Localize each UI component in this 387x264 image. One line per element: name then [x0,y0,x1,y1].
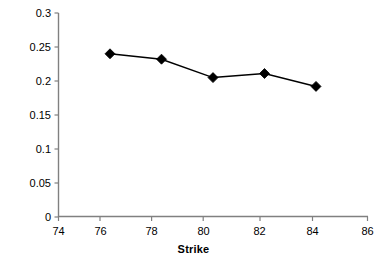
line-chart: 0.3 0.25 0.2 0.15 0.1 0.05 0 74 76 78 80… [0,0,387,264]
y-tick-label-0.2: 0.2 [4,76,51,87]
data-point-marker [208,73,218,83]
y-tick-label-0.3: 0.3 [4,8,51,19]
x-tick-label-86: 86 [347,226,387,237]
y-tick-label-0.15: 0.15 [4,110,51,121]
x-axis-title: Strike [0,243,387,255]
y-tick-label-0.25: 0.25 [4,42,51,53]
x-tick-label-76: 76 [80,226,121,237]
x-tick-label-78: 78 [131,226,172,237]
x-tick-label-82: 82 [239,226,280,237]
y-tick-label-0: 0 [4,212,51,223]
y-tick-label-0.05: 0.05 [4,178,51,189]
data-point-marker [311,81,321,91]
x-tick-label-80: 80 [183,226,224,237]
data-point-marker [157,54,167,64]
data-point-marker [260,69,270,79]
data-point-marker [105,49,115,59]
series-markers [105,49,321,92]
x-tick-label-74: 74 [38,226,79,237]
x-tick-label-84: 84 [292,226,333,237]
y-tick-label-0.1: 0.1 [4,144,51,155]
